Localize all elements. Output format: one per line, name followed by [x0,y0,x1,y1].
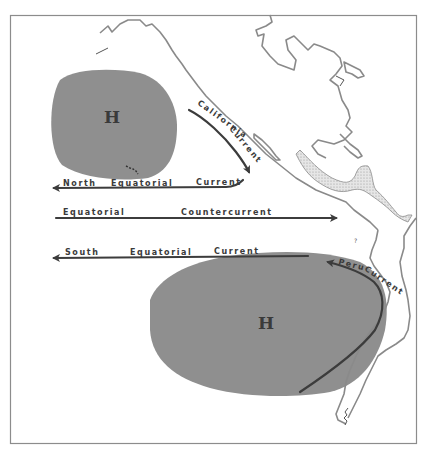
south-high-label: H [258,313,274,333]
south-equatorial-label-equatorial: Equatorial [130,248,192,257]
countercurrent-label-countercurrent: Countercurrent [181,208,273,217]
north-equatorial-label-equatorial: Equatorial [111,179,173,188]
north-equatorial-label-current: Current [196,178,242,187]
north-equatorial-label-north: North [63,179,97,188]
ocean-currents-map: H H ? California Current North Equatoria… [0,0,429,459]
galapagos-mark: ? [354,237,357,244]
countercurrent-label-equatorial: Equatorial [63,208,125,217]
north-high-label: H [104,107,120,127]
south-equatorial-label-current: Current [214,247,260,256]
south-equatorial-label-south: South [65,248,99,257]
